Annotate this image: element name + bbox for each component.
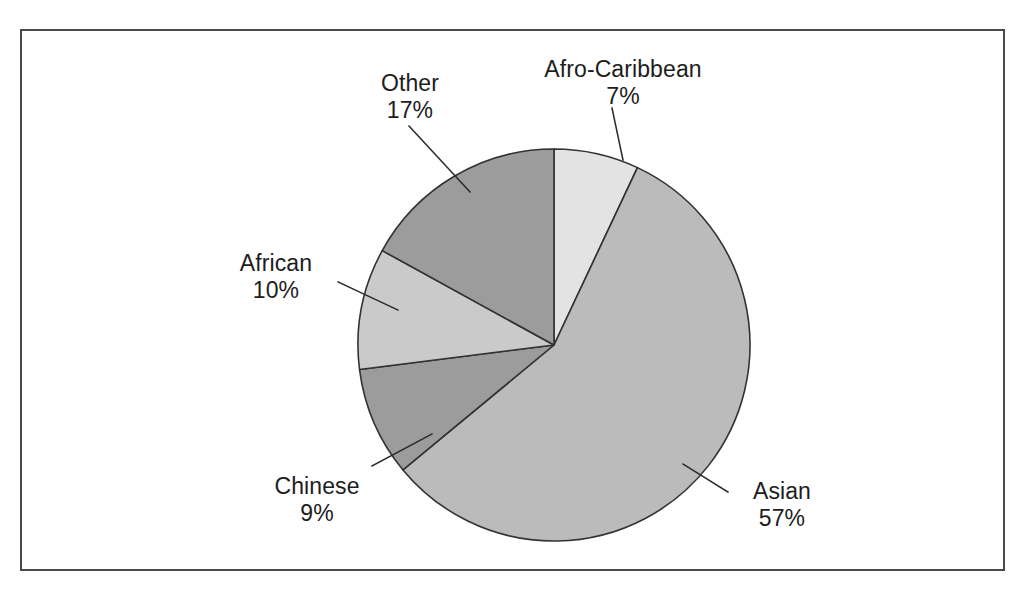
- pie-label-african: African 10%: [217, 250, 335, 303]
- pie-label-asian-value: 57%: [730, 505, 834, 532]
- pie-label-other-name: Other: [355, 70, 465, 97]
- pie-label-chinese-value: 9%: [258, 500, 376, 527]
- pie-label-afro-caribbean-name: Afro-Caribbean: [528, 56, 718, 83]
- pie-label-other-value: 17%: [355, 97, 465, 124]
- pie-slices-group: [358, 149, 750, 541]
- pie-label-chinese-name: Chinese: [258, 473, 376, 500]
- pie-chart-figure: Afro-Caribbean 7% Other 17% African 10% …: [0, 0, 1027, 598]
- pie-label-afro-caribbean: Afro-Caribbean 7%: [528, 56, 718, 109]
- pie-label-asian-name: Asian: [730, 478, 834, 505]
- leader-line-other: [409, 126, 470, 192]
- pie-label-african-name: African: [217, 250, 335, 277]
- pie-label-other: Other 17%: [355, 70, 465, 123]
- pie-label-afro-caribbean-value: 7%: [528, 83, 718, 110]
- pie-chart-canvas: [0, 0, 1027, 598]
- pie-label-asian: Asian 57%: [730, 478, 834, 531]
- pie-label-chinese: Chinese 9%: [258, 473, 376, 526]
- leader-line-afro-caribbean: [612, 108, 623, 160]
- pie-label-african-value: 10%: [217, 277, 335, 304]
